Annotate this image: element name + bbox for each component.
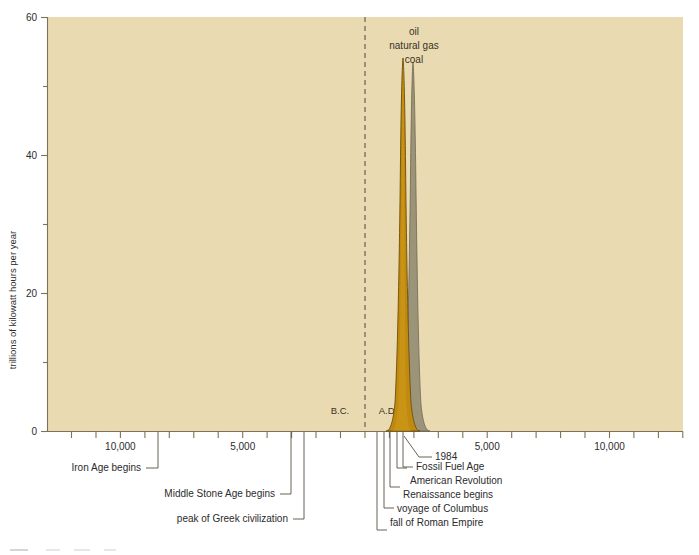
leader-1984 <box>404 436 432 457</box>
x-tick-label-bc-10000: 10,000 <box>105 441 136 452</box>
y-tick-label-40: 40 <box>26 150 38 161</box>
y-axis-title: trillions of kilowatt hours per year <box>7 231 18 369</box>
x-tick-label-ad-10000: 10,000 <box>594 441 625 452</box>
annotation-label-fall-of-rome: fall of Roman Empire <box>390 517 484 528</box>
annotation-label-iron-age: Iron Age begins <box>72 462 142 473</box>
x-tick-label-ad-5000: 5,000 <box>475 441 500 452</box>
leader-greek-civilization <box>293 432 304 519</box>
x-tick-label-bc-5000: 5,000 <box>230 441 255 452</box>
annotation-label-renaissance: Renaissance begins <box>403 489 493 500</box>
annotation-label-columbus: voyage of Columbus <box>397 503 488 514</box>
series-label-coal: coal <box>405 54 423 65</box>
y-tick-label-60: 60 <box>26 12 38 23</box>
series-label-oil: oil <box>409 26 419 37</box>
leader-renaissance <box>390 432 400 487</box>
era-label-bc: B.C. <box>331 405 349 416</box>
caption-fragment <box>10 549 116 551</box>
annotation-leaders-left <box>146 432 304 519</box>
leader-columbus <box>384 432 394 508</box>
annotation-label-middle-stone-age: Middle Stone Age begins <box>164 488 275 499</box>
y-tick-label-20: 20 <box>26 288 38 299</box>
series-label-natural-gas: natural gas <box>389 40 438 51</box>
y-tick-label-0: 0 <box>31 426 37 437</box>
leader-fall-of-rome <box>377 432 387 530</box>
annotation-label-fossil-fuel-age: Fossil Fuel Age <box>416 461 485 472</box>
annotation-label-greek-civilization: peak of Greek civilization <box>177 513 288 524</box>
leader-middle-stone-age <box>280 432 291 494</box>
energy-history-chart: 0 20 40 60 trillions of kilowatt hours p… <box>0 0 699 555</box>
annotation-label-american-revolution: American Revolution <box>410 475 502 486</box>
leader-iron-age <box>146 432 158 468</box>
chart-svg: 0 20 40 60 trillions of kilowatt hours p… <box>0 0 699 555</box>
y-axis-ticks <box>41 18 47 432</box>
